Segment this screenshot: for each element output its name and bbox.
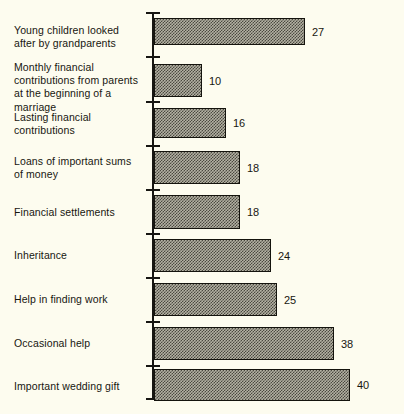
bar <box>154 239 271 272</box>
axis-tick-5 <box>146 233 160 235</box>
category-label: Loans of important sums of money <box>14 155 146 181</box>
bar <box>154 283 277 316</box>
bar-value-label: 18 <box>247 207 259 218</box>
category-label: Financial settlements <box>14 206 146 219</box>
bar-value-label: 40 <box>357 380 369 391</box>
category-label: Occasional help <box>14 337 146 350</box>
bar-value-label: 18 <box>247 163 259 174</box>
bar <box>154 108 226 138</box>
bar <box>154 151 240 184</box>
bar <box>154 195 240 229</box>
axis-tick-7 <box>146 321 160 323</box>
axis-tick-8 <box>146 365 160 367</box>
category-label: Important wedding gift <box>14 380 146 393</box>
bar <box>154 64 202 97</box>
category-label: Help in finding work <box>14 293 146 306</box>
bar <box>154 369 350 401</box>
bar-value-label: 24 <box>278 251 290 262</box>
bar <box>154 327 334 360</box>
bar <box>154 18 305 45</box>
axis-tick-1 <box>146 56 160 58</box>
bar-value-label: 25 <box>284 295 296 306</box>
bar-value-label: 10 <box>209 76 221 87</box>
axis-tick-3 <box>146 145 160 147</box>
bar-value-label: 16 <box>233 118 245 129</box>
axis-tick-0 <box>146 12 160 14</box>
bar-value-label: 27 <box>312 27 324 38</box>
category-label: Young children looked after by grandpare… <box>14 24 146 50</box>
category-label: Monthly financial contributions from par… <box>14 61 146 114</box>
category-label: Lasting financial contributions <box>14 111 146 137</box>
axis-tick-6 <box>146 277 160 279</box>
bar-chart-figure: Young children looked after by grandpare… <box>0 0 404 414</box>
category-label: Inheritance <box>14 249 146 262</box>
bar-value-label: 38 <box>341 339 353 350</box>
axis-tick-2 <box>146 101 160 103</box>
axis-tick-4 <box>146 189 160 191</box>
